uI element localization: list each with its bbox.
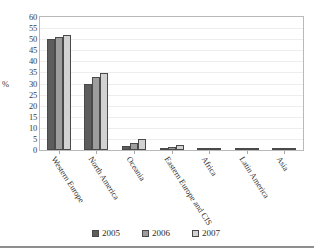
legend-swatch: [92, 230, 99, 237]
bar-group: [47, 17, 71, 150]
y-axis-tick: 30: [29, 80, 37, 89]
x-axis-tick-mark: [96, 151, 97, 154]
y-axis-tick: 35: [29, 68, 37, 77]
x-axis-tick-label: Oceania: [124, 155, 146, 183]
figure-container: 605550454035302520151050 % Western Europ…: [0, 0, 314, 248]
legend-item[interactable]: 2006: [142, 229, 170, 238]
bar: [176, 145, 184, 150]
bar-group: [84, 17, 108, 150]
bar: [138, 139, 146, 150]
x-axis-tick-label: North America: [87, 155, 122, 201]
y-axis-tick: 15: [29, 113, 37, 122]
bar: [235, 148, 243, 150]
y-axis-tick: 5: [33, 135, 37, 144]
x-axis-tick-label: Asia: [275, 155, 291, 173]
bar: [243, 148, 251, 150]
y-axis-tick: 55: [29, 24, 37, 33]
bar: [160, 148, 168, 150]
legend-label: 2005: [102, 229, 120, 238]
y-axis-tick: 50: [29, 35, 37, 44]
y-axis-tick: 25: [29, 91, 37, 100]
y-axis-tick: 60: [29, 13, 37, 22]
bar-group: [122, 17, 146, 150]
x-axis-tick-label: Western Europe: [49, 155, 85, 204]
legend-item[interactable]: 2007: [192, 229, 220, 238]
x-axis-tick-mark: [59, 151, 60, 154]
y-axis-tick: 40: [29, 57, 37, 66]
y-axis-tick: 10: [29, 124, 37, 133]
y-axis-tick-labels: 605550454035302520151050: [17, 10, 39, 158]
bar-group: [272, 17, 296, 150]
legend-swatch: [142, 230, 149, 237]
x-axis-tick-label: Africa: [200, 155, 219, 178]
y-axis-tick: 20: [29, 102, 37, 111]
bar: [55, 37, 63, 150]
x-axis-tick-mark: [247, 151, 248, 154]
legend-swatch: [192, 230, 199, 237]
bar: [47, 39, 55, 150]
bar: [130, 143, 138, 150]
x-axis-tick-label: Latin America: [237, 155, 271, 200]
bar: [213, 148, 221, 150]
bar: [205, 148, 213, 150]
bar: [251, 148, 259, 150]
x-axis-tick-mark: [134, 151, 135, 154]
bar: [92, 77, 100, 150]
bar: [288, 148, 296, 150]
plot-area: [39, 16, 304, 151]
bar: [272, 148, 280, 150]
bar: [84, 84, 92, 150]
legend-item[interactable]: 2005: [92, 229, 120, 238]
x-axis-tick-labels: Western EuropeNorth AmericaOceaniaEaster…: [39, 151, 304, 223]
bar-chart: 605550454035302520151050 % Western Europ…: [0, 0, 314, 248]
bar-group: [197, 17, 221, 150]
legend-label: 2007: [202, 229, 220, 238]
bar: [100, 73, 108, 150]
x-axis-tick-mark: [284, 151, 285, 154]
bar-group: [160, 17, 184, 150]
bar: [197, 148, 205, 150]
bar: [280, 148, 288, 150]
bar: [122, 146, 130, 150]
bar-group: [235, 17, 259, 150]
y-axis-tick: 45: [29, 46, 37, 55]
x-axis-tick-mark: [209, 151, 210, 154]
bar: [63, 35, 71, 150]
legend-label: 2006: [152, 229, 170, 238]
bar: [168, 147, 176, 150]
y-axis-title: %: [2, 80, 9, 89]
y-axis-tick: 0: [33, 146, 37, 155]
x-axis-tick-mark: [172, 151, 173, 154]
chart-legend: 200520062007: [66, 226, 246, 240]
